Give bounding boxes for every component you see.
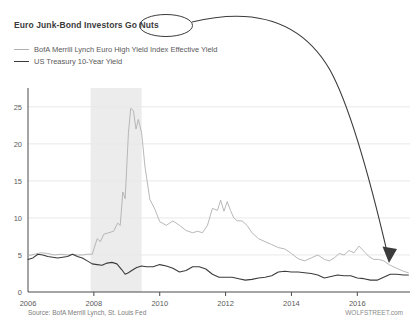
- annotation-layer: [140, 15, 398, 264]
- series-lines: [28, 108, 408, 280]
- axis-lines: [28, 88, 410, 292]
- svg-text:0: 0: [18, 288, 22, 297]
- svg-text:25: 25: [14, 103, 22, 112]
- svg-text:20: 20: [14, 140, 22, 149]
- watermark: WOLFSTREET.com: [345, 309, 403, 316]
- gridlines: [28, 107, 410, 255]
- svg-text:5: 5: [18, 251, 22, 260]
- svg-text:10: 10: [14, 214, 22, 223]
- svg-text:15: 15: [14, 177, 22, 186]
- source-note: Source: BofA Merrill Lynch, St. Louis Fe…: [28, 309, 146, 316]
- recession-shading: [91, 88, 142, 292]
- circle-annotation: [140, 15, 193, 37]
- y-axis-tick-labels: 0510152025: [14, 103, 22, 297]
- x-axis-tick-marks: [94, 292, 357, 296]
- svg-text:2014: 2014: [283, 299, 300, 308]
- svg-text:2016: 2016: [349, 299, 366, 308]
- x-axis-tick-labels: 200620082010201220142016: [20, 299, 366, 308]
- curved-arrow-annotation: [192, 16, 388, 256]
- svg-text:2006: 2006: [20, 299, 37, 308]
- svg-text:2012: 2012: [217, 299, 234, 308]
- svg-text:2010: 2010: [151, 299, 168, 308]
- chart-container: Euro Junk-Bond Investors Go Nuts BofA Me…: [0, 0, 417, 335]
- plot-area: 0510152025 200620082010201220142016: [0, 0, 417, 335]
- svg-text:2008: 2008: [86, 299, 103, 308]
